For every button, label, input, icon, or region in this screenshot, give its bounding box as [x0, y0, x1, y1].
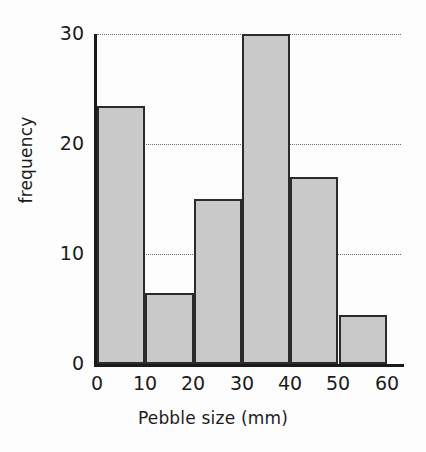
plot-area — [97, 34, 387, 364]
histogram-figure: frequency Pebble size (mm) 30 20 10 0 0 … — [0, 0, 426, 452]
y-tick-label-10: 10 — [38, 244, 84, 263]
x-axis-title: Pebble size (mm) — [0, 408, 426, 428]
y-tick-label-20: 20 — [38, 134, 84, 153]
x-axis-line — [94, 364, 404, 367]
x-tick-label-0: 0 — [77, 374, 117, 393]
bar-40-50 — [290, 177, 338, 364]
bar-20-30 — [194, 199, 242, 364]
bar-0-10 — [97, 106, 145, 365]
x-tick-label-40: 40 — [270, 374, 310, 393]
bar-30-40 — [242, 34, 290, 364]
bar-10-20 — [145, 293, 193, 365]
y-tick-label-0: 0 — [38, 354, 84, 373]
x-tick-label-10: 10 — [125, 374, 165, 393]
bar-50-60 — [339, 315, 387, 365]
y-tick-label-30: 30 — [38, 24, 84, 43]
y-axis-title: frequency — [16, 90, 36, 230]
x-tick-label-30: 30 — [222, 374, 262, 393]
x-tick-label-60: 60 — [367, 374, 407, 393]
x-tick-label-50: 50 — [318, 374, 358, 393]
x-tick-label-20: 20 — [173, 374, 213, 393]
